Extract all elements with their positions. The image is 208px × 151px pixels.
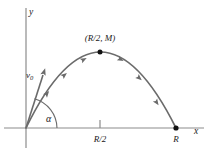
launch-angle-label: α xyxy=(46,113,52,124)
velocity-subscript: 0 xyxy=(30,74,34,81)
vertex-coordinate-label: (R/2, M) xyxy=(85,33,116,43)
trajectory-direction-arrows xyxy=(43,56,161,107)
y-axis-label: y xyxy=(28,7,34,17)
half-range-tick-label: R/2 xyxy=(93,134,107,144)
velocity-label-group: v0 xyxy=(26,70,34,81)
projectile-motion-figure: y x (R/2, M) R/2 R v0 α xyxy=(0,0,208,151)
range-label: R xyxy=(172,134,179,144)
x-axis-label: x xyxy=(193,126,199,136)
velocity-arrowhead-icon xyxy=(40,67,47,75)
vertex-point-marker xyxy=(98,50,103,55)
landing-point-marker xyxy=(173,125,178,130)
projectile-diagram-svg: y x (R/2, M) R/2 R v0 α xyxy=(0,0,208,151)
